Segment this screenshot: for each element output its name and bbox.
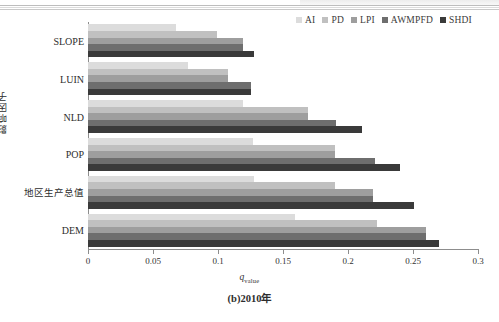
bar-pd (88, 220, 377, 227)
bar-lpi (88, 75, 228, 82)
x-axis-tick-label: 0.25 (405, 256, 421, 266)
bar-shdi (88, 202, 414, 209)
y-axis-title: 影响因子 (0, 81, 56, 143)
x-axis-tick (218, 250, 219, 254)
x-axis-title: qvalue (0, 272, 499, 284)
x-axis-tick (348, 250, 349, 254)
x-axis-tick (283, 250, 284, 254)
bar-shdi (88, 126, 362, 133)
bar-pd (88, 107, 308, 114)
bar-pd (88, 182, 335, 189)
bar-awmpfd (88, 158, 375, 165)
bar-shdi (88, 89, 251, 96)
bar-awmpfd (88, 196, 373, 203)
bar-awmpfd (88, 233, 426, 240)
bar-awmpfd (88, 120, 336, 127)
x-axis-tick-label: 0.3 (472, 256, 483, 266)
x-axis-tick (153, 250, 154, 254)
y-axis-label-2: NLD (63, 111, 84, 122)
x-axis-tick (88, 250, 89, 254)
figure-caption: (b)2010年 (0, 290, 499, 305)
bar-ai (88, 214, 295, 221)
bar-group (88, 214, 478, 247)
plot-area (88, 22, 478, 249)
bar-pd (88, 69, 228, 76)
x-axis-tick (478, 250, 479, 254)
bar-lpi (88, 113, 308, 120)
y-axis-label-1: LUIN (60, 73, 84, 84)
bar-group (88, 176, 478, 209)
bar-ai (88, 100, 243, 107)
x-axis-tick-label: 0.05 (145, 256, 161, 266)
y-axis-label-4: 地区生产总值 (24, 185, 84, 199)
bar-group (88, 100, 478, 133)
bar-shdi (88, 51, 254, 58)
bar-pd (88, 145, 335, 152)
bar-group (88, 138, 478, 171)
x-axis-tick-label: 0.2 (342, 256, 353, 266)
bar-ai (88, 138, 253, 145)
bar-pd (88, 31, 217, 38)
bar-ai (88, 62, 188, 69)
bar-shdi (88, 240, 439, 247)
bar-ai (88, 176, 254, 183)
bar-lpi (88, 151, 335, 158)
bar-awmpfd (88, 82, 251, 89)
bar-lpi (88, 38, 243, 45)
x-axis-tick-label: 0 (86, 256, 91, 266)
x-axis-tick-label: 0.1 (212, 256, 223, 266)
bar-awmpfd (88, 44, 243, 51)
bar-shdi (88, 164, 400, 171)
y-axis-label-0: SLOPE (53, 35, 84, 46)
figure-canvas: AIPDLPIAWMPFDSHDI SLOPELUINNLDPOP地区生产总值D… (0, 0, 499, 322)
x-axis-tick-label: 0.15 (275, 256, 291, 266)
bar-lpi (88, 227, 426, 234)
bar-lpi (88, 189, 373, 196)
y-axis-label-3: POP (66, 149, 84, 160)
y-axis-label-5: DEM (62, 225, 84, 236)
x-axis-tick (413, 250, 414, 254)
bar-ai (88, 24, 176, 31)
bar-group (88, 24, 478, 57)
x-axis-title-subscript: value (244, 277, 259, 284)
bar-group (88, 62, 478, 95)
